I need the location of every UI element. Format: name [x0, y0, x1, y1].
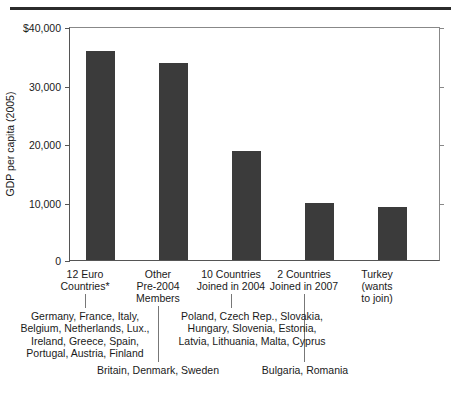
y-axis-label-0: 0: [55, 255, 61, 267]
y-axis-title: GDP per capita (2005): [4, 92, 16, 197]
annotation-other-pre-2004: Britain, Denmark, Sweden: [88, 364, 228, 376]
annotation-line: Belgium, Netherlands, Lux.,: [10, 322, 160, 334]
y-axis-label-10000: 10,000: [29, 198, 61, 210]
bar-joined-2007[interactable]: [305, 203, 334, 260]
annotation-line: Poland, Czech Rep., Slovakia,: [168, 310, 336, 322]
y-axis-tick-10000: [65, 204, 70, 205]
annotation-line: Portugal, Austria, Finland: [10, 347, 160, 359]
top-divider-rule: [10, 7, 451, 10]
bar-other-pre-2004[interactable]: [159, 63, 188, 260]
annotation-12-euro-countries: Germany, France, Italy, Belgium, Netherl…: [10, 310, 160, 360]
annotation-line: Bulgaria, Romania: [245, 364, 365, 376]
annotation-line: Hungary, Slovenia, Estonia,: [168, 322, 336, 334]
category-label-line: Members: [113, 292, 203, 304]
annotation-line: Britain, Denmark, Sweden: [88, 364, 228, 376]
annotation-line: Germany, France, Italy,: [10, 310, 160, 322]
y-axis-tick-30000: [65, 87, 70, 88]
y-axis-label-40000: $40,000: [23, 22, 61, 34]
chart-plot-area: $40,000 30,000 20,000 10,000 0: [69, 27, 440, 261]
annotation-joined-2007: Bulgaria, Romania: [245, 364, 365, 376]
y-axis-tick-0: [65, 261, 70, 262]
y-axis-tick-right-20000: [439, 145, 444, 146]
category-label-line: to join): [337, 292, 417, 304]
y-axis-tick-right-40000: [439, 28, 444, 29]
category-label-line: (wants: [337, 280, 417, 292]
annotation-line: Ireland, Greece, Spain,: [10, 335, 160, 347]
annotation-joined-2004: Poland, Czech Rep., Slovakia, Hungary, S…: [168, 310, 336, 347]
y-axis-tick-right-30000: [439, 87, 444, 88]
leader-line-12-euro-countries: [85, 294, 86, 308]
y-axis-tick-40000: [65, 28, 70, 29]
bar-12-euro-countries[interactable]: [86, 51, 115, 260]
leader-line-joined-2004: [231, 294, 232, 308]
annotation-line: Latvia, Lithuania, Malta, Cyprus: [168, 335, 336, 347]
category-label-turkey: Turkey (wants to join): [337, 268, 417, 305]
y-axis-label-30000: 30,000: [29, 81, 61, 93]
y-axis-tick-20000: [65, 145, 70, 146]
category-label-line: Turkey: [337, 268, 417, 280]
bar-turkey[interactable]: [378, 207, 407, 260]
y-axis-label-20000: 20,000: [29, 139, 61, 151]
bar-joined-2004[interactable]: [232, 151, 261, 260]
y-axis-tick-right-10000: [439, 204, 444, 205]
